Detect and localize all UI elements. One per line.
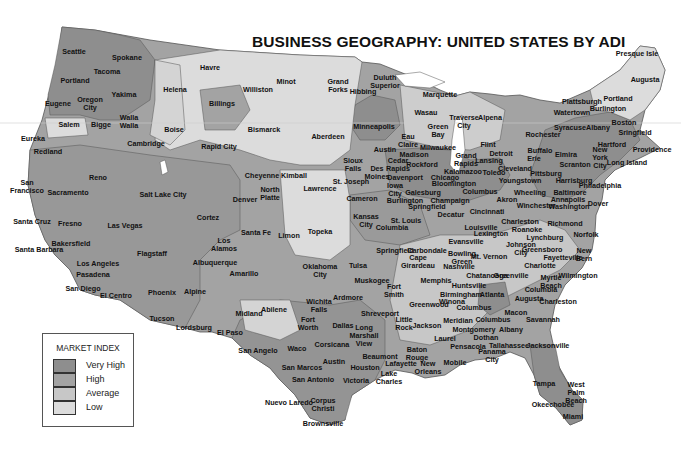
city-label: Lordsburg — [176, 324, 212, 332]
city-label: Burlington — [590, 105, 626, 113]
city-label: Tampa — [533, 380, 556, 388]
legend-item-low: Low — [53, 401, 133, 416]
city-label: Cortez — [197, 214, 219, 222]
city-label: San Antonio — [292, 376, 334, 384]
city-label: Erie — [527, 155, 541, 163]
city-label: Santa Cruz — [13, 218, 51, 226]
city-label: Brownsville — [303, 420, 343, 428]
city-label: North Platte — [260, 186, 280, 202]
city-label: Cincinnati — [470, 208, 505, 216]
city-label: Portland — [603, 95, 632, 103]
city-label: Flint — [480, 141, 495, 149]
city-label: Victoria — [343, 377, 369, 385]
city-label: Little Rock — [395, 316, 413, 332]
city-label: Portland — [60, 77, 89, 85]
city-label: Eau Claire — [398, 133, 418, 149]
city-label: Topeka — [308, 228, 333, 236]
city-label: Scranton — [559, 161, 590, 169]
city-label: Tacoma — [94, 68, 121, 76]
city-label: Cambridge — [127, 140, 165, 148]
legend-label-very-high: Very High — [86, 360, 125, 370]
legend-label-low: Low — [86, 402, 103, 412]
legend-item-high: High — [53, 373, 133, 388]
city-label: Las Vegas — [107, 222, 142, 230]
city-label: Oregon City — [77, 96, 103, 112]
city-label: Mobile — [444, 359, 467, 367]
city-label: Albuquerque — [193, 259, 237, 267]
city-label: El Centro — [100, 292, 132, 300]
city-label: Watertown — [554, 109, 590, 117]
city-label: Okeechobee — [532, 401, 575, 409]
legend-swatch-average — [53, 387, 76, 401]
city-label: Pasadena — [76, 271, 110, 279]
city-label: Traverse City — [449, 114, 479, 130]
city-label: Memphis — [420, 277, 451, 285]
city-label: Columbia — [525, 286, 558, 294]
city-label: Augusta — [631, 76, 660, 84]
legend-label-average: Average — [86, 388, 119, 398]
city-label: Seattle — [62, 48, 86, 56]
city-label: Salem — [58, 121, 79, 129]
city-label: Austin — [323, 358, 345, 366]
city-label: Lafayette — [385, 360, 417, 368]
city-label: Denver — [233, 196, 257, 204]
city-label: Lake Charles — [376, 370, 402, 386]
city-label: Minneapolis — [353, 123, 395, 131]
city-label: Miami — [563, 413, 583, 421]
city-label: Greenville — [494, 272, 529, 280]
city-label: Charlotte — [524, 262, 556, 270]
city-label: Cleveland — [498, 165, 532, 173]
city-label: Alpine — [184, 288, 206, 296]
city-label: Flagstaff — [137, 250, 167, 258]
city-label: Salt Lake City — [139, 191, 186, 199]
city-label: Nashville — [443, 263, 475, 271]
city-label: Los Angeles — [77, 260, 119, 268]
city-label: Albany — [586, 124, 610, 132]
city-label: Akron — [497, 196, 518, 204]
city-label: Tulsa — [349, 262, 367, 270]
city-label: Jacksonville — [527, 342, 570, 350]
city-label: Nuevo Laredo — [265, 399, 313, 407]
city-label: Bismarck — [248, 126, 280, 134]
city-label: Walla Walla — [120, 114, 139, 130]
city-label: Santa Barbara — [15, 246, 64, 254]
city-label: Fort Worth — [298, 316, 319, 332]
map-title: BUSINESS GEOGRAPHY: UNITED STATES BY ADI — [252, 33, 625, 51]
legend-item-very-high: Very High — [53, 359, 133, 374]
city-label: New Orleans — [415, 360, 442, 376]
city-label: Sringfield — [618, 129, 651, 137]
legend-swatch-low — [53, 401, 76, 415]
city-label: Charleston — [539, 298, 577, 306]
city-label: Aberdeen — [311, 133, 344, 141]
city-label: Cheyenne — [245, 172, 279, 180]
city-label: Panama City — [478, 348, 506, 364]
city-label: St. Joseph — [333, 178, 369, 186]
legend-label-high: High — [86, 374, 105, 384]
city-label: Kimball — [281, 172, 307, 180]
city-label: Champaign — [430, 197, 469, 205]
city-label: Wheeling — [514, 189, 546, 197]
city-label: Kalamazoo — [444, 168, 482, 176]
city-label: San Angelo — [238, 347, 277, 355]
city-label: Helena — [163, 86, 187, 94]
city-label: San Marcos — [282, 364, 322, 372]
city-label: Tucson — [149, 315, 174, 323]
city-label: Mt. Vernon — [471, 253, 508, 261]
city-label: New York City — [592, 146, 607, 170]
city-label: Cameron — [346, 195, 377, 203]
city-label: Austin — [374, 146, 396, 154]
city-label: Ardmore — [333, 294, 363, 302]
city-label: Fresno — [58, 220, 82, 228]
city-label: Columbus — [475, 316, 510, 324]
city-label: Presque Isle — [616, 50, 658, 58]
city-label: Winchester — [517, 202, 556, 210]
city-label: Spokane — [112, 54, 142, 62]
city-label: Amarillo — [230, 270, 259, 278]
city-label: Rapid City — [201, 143, 237, 151]
legend-swatch-very-high — [53, 359, 76, 373]
city-label: Decatur — [438, 211, 465, 219]
city-label: Waco — [288, 345, 307, 353]
city-label: Marquette — [423, 91, 457, 99]
city-label: Long Marshall View — [349, 324, 378, 348]
city-label: Midland — [235, 310, 262, 318]
